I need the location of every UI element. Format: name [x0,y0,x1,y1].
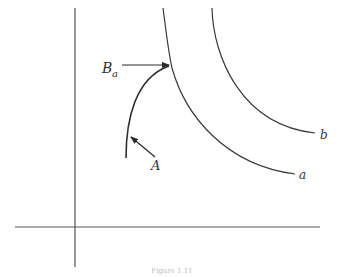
curve-a [163,8,295,174]
curve-b [212,8,315,133]
label-B-subscript: a [112,68,118,79]
curve-A [126,66,169,158]
diagram: B a A a b Figure 1.11 [0,0,338,277]
label-curve-a: a [299,168,306,182]
label-A: A [150,158,160,173]
label-curve-b: b [320,128,328,142]
figure-caption: Figure 1.11 [151,267,192,275]
label-B: B [101,60,112,76]
arrow-A [131,137,155,157]
